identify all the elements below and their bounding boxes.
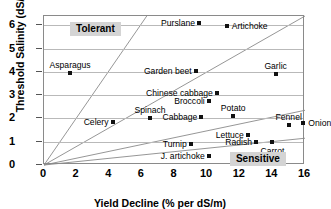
point-label: Cabbage [163, 112, 198, 122]
data-point [207, 99, 211, 103]
y-tick-label: 6 [0, 18, 15, 30]
data-point [274, 72, 278, 76]
data-point [197, 21, 201, 25]
point-label: Celery [84, 117, 109, 127]
point-label: J. artichoke [161, 151, 205, 161]
y-tick-mark [36, 94, 42, 95]
data-point [215, 91, 219, 95]
data-point [225, 24, 229, 28]
x-tick-label: 8 [159, 167, 189, 179]
point-label: Fennel [276, 112, 302, 122]
point-label: Garlic [264, 61, 286, 71]
data-point [148, 116, 152, 120]
point-label: Potato [221, 103, 246, 113]
zone-label-sensitive: Sensitive [230, 152, 286, 166]
y-tick-label: 3 [0, 88, 15, 100]
y-tick-label: 0 [0, 158, 15, 170]
y-tick-mark [36, 117, 42, 118]
data-point [189, 142, 193, 146]
y-tick-label: 1 [0, 135, 15, 147]
data-point [270, 140, 274, 144]
y-tick-label: 2 [0, 111, 15, 123]
y-axis-title: Threshold Salinity (dS/m) [14, 0, 26, 129]
y-tick-mark [36, 48, 42, 49]
point-label: Onion [308, 118, 331, 128]
point-label: Broccoli [174, 96, 205, 106]
x-tick-label: 12 [224, 167, 254, 179]
y-tick-label: 5 [0, 42, 15, 54]
y-tick-mark [36, 24, 42, 25]
y-tick-mark [36, 164, 42, 165]
x-tick-label: 14 [256, 167, 286, 179]
zone-label-tolerant: Tolerant [70, 22, 121, 36]
plot-area: AsparagusPurslaneArtichokeGarden beetGar… [43, 15, 304, 164]
y-tick-mark [36, 71, 42, 72]
point-label: Purslane [161, 18, 195, 28]
y-tick-label: 4 [0, 65, 15, 77]
x-tick-label: 6 [126, 167, 156, 179]
x-tick-label: 16 [289, 167, 319, 179]
point-label: Turnip [163, 139, 187, 149]
point-label: Asparagus [50, 60, 91, 70]
point-label: Garden beet [144, 66, 192, 76]
point-label: Spinach [135, 105, 166, 115]
x-axis-title: Yield Decline (% per dS/m) [0, 197, 320, 209]
point-label: Artichoke [232, 21, 268, 31]
data-point [207, 154, 211, 158]
data-point [254, 140, 258, 144]
data-point [287, 123, 291, 127]
data-point [301, 121, 305, 125]
gridline [44, 49, 303, 50]
y-tick-mark [36, 141, 42, 142]
x-tick-label: 4 [93, 167, 123, 179]
point-label: Radish [225, 137, 252, 147]
data-point [68, 71, 72, 75]
data-point [194, 69, 198, 73]
x-tick-label: 0 [28, 167, 58, 179]
data-point [231, 114, 235, 118]
x-tick-label: 2 [61, 167, 91, 179]
data-point [199, 115, 203, 119]
data-point [111, 120, 115, 124]
x-tick-label: 10 [191, 167, 221, 179]
